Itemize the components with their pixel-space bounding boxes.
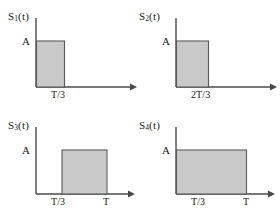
pulse-rect-s2 <box>177 41 209 87</box>
xtick-label-s4-1: T <box>243 197 249 207</box>
amplitude-label-s1: A <box>22 36 30 47</box>
amplitude-label-s2: A <box>162 36 170 47</box>
plot-panel-s3: S3(t) A T/3 T <box>0 112 140 223</box>
x-axis-arrow-s3 <box>128 191 135 198</box>
xtick-label-s2-0: 2T/3 <box>191 90 210 100</box>
signal-label-s4: S4(t) <box>139 120 160 132</box>
xtick-label-s3-1: T <box>103 197 109 207</box>
signal-label-s2: S2(t) <box>139 11 160 23</box>
plot-svg-s4 <box>140 112 280 223</box>
signal-waveform-figure: S1(t) A T/3 S2(t) A 2T/3 S3(t) A T/3 T <box>0 0 280 223</box>
pulse-rect-s3 <box>62 150 107 194</box>
x-axis-arrow-s2 <box>270 84 277 91</box>
amplitude-label-s4: A <box>162 145 170 156</box>
x-axis-arrow-s4 <box>268 191 275 198</box>
xtick-label-s1-0: T/3 <box>51 90 65 100</box>
plot-panel-s2: S2(t) A 2T/3 <box>140 0 280 111</box>
xtick-label-s3-0: T/3 <box>51 197 65 207</box>
amplitude-label-s3: A <box>22 145 30 156</box>
signal-label-s3: S3(t) <box>8 120 29 132</box>
pulse-rect-s4 <box>177 150 247 194</box>
xtick-label-s4-0: T/3 <box>191 197 205 207</box>
signal-label-s1: S1(t) <box>8 11 29 23</box>
plot-panel-s1: S1(t) A T/3 <box>0 0 140 111</box>
plot-panel-s4: S4(t) A T/3 T <box>140 112 280 223</box>
pulse-rect-s1 <box>37 41 65 87</box>
x-axis-arrow-s1 <box>130 84 137 91</box>
